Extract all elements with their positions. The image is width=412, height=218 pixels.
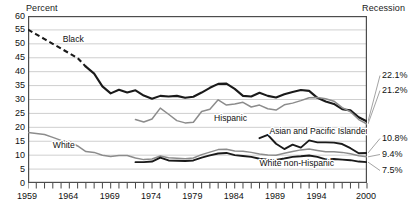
end-value-label: 10.8% [382, 134, 408, 143]
x-tick-label: 1994 [306, 192, 326, 201]
y-tick-label: 50 [15, 39, 25, 48]
leader-line [368, 91, 380, 124]
chart-root: Percent Recession 6055504540353025201510… [0, 0, 412, 218]
x-tick-label: 1969 [100, 192, 120, 201]
x-tick-label: 1984 [224, 192, 244, 201]
x-axis-tick-labels: 195919641969197419791984198919942000 [28, 185, 373, 215]
y-tick-label: 15 [15, 137, 25, 146]
end-value-labels: 22.1%21.2%10.8%9.4%7.5% [368, 16, 412, 196]
y-tick-label: 20 [15, 123, 25, 132]
end-value-label: 21.2% [382, 86, 408, 95]
y-tick-label: 5 [20, 165, 25, 174]
series-label-hispanic: Hispanic [214, 113, 248, 123]
end-value-label: 9.4% [382, 150, 403, 159]
y-tick-label: 30 [15, 95, 25, 104]
x-tick-label: 1959 [17, 192, 37, 201]
y-tick-label: 35 [15, 81, 25, 90]
leader-line [368, 139, 380, 153]
plot-area: BlackBlackHispanicHispanicAsian and Paci… [28, 16, 367, 183]
x-tick-label: 1989 [265, 192, 285, 201]
end-value-label: 7.5% [382, 166, 403, 175]
series-label-white-non-hispanic: White non-Hispanic [260, 158, 335, 168]
y-tick-label: 45 [15, 53, 25, 62]
y-tick-label: 25 [15, 109, 25, 118]
chart-svg: BlackBlackHispanicHispanicAsian and Paci… [28, 16, 367, 183]
x-tick-label: 1979 [182, 192, 202, 201]
series-label-white: White [53, 140, 75, 150]
y-tick-label: 10 [15, 151, 25, 160]
leader-line [368, 76, 380, 122]
recession-label: Recession [362, 3, 405, 13]
x-tick-label: 1974 [141, 192, 161, 201]
x-tick-label: 1964 [58, 192, 78, 201]
leader-line [368, 155, 380, 157]
series-label-asian-and-pacific-islander: Asian and Pacific Islander [269, 126, 367, 136]
leader-lines [368, 16, 382, 196]
y-tick-label: 0 [20, 179, 25, 188]
y-tick-label: 60 [15, 12, 25, 21]
x-axis-ticks [28, 183, 373, 190]
y-tick-label: 40 [15, 67, 25, 76]
leader-line [368, 162, 380, 170]
y-axis-tick-labels: 605550454035302520151050 [0, 10, 25, 190]
y-axis-title: Percent [26, 3, 58, 13]
end-value-label: 22.1% [382, 71, 408, 80]
y-tick-label: 55 [15, 25, 25, 34]
series-line-hispanic [135, 98, 367, 124]
series-label-black: Black [63, 34, 85, 44]
